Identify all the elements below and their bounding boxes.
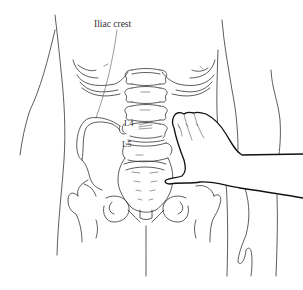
sacrum (118, 158, 173, 212)
right-femur-head (163, 196, 189, 222)
label-l5: L5 (122, 139, 131, 149)
ribs-left (73, 60, 128, 96)
ribs-right (162, 60, 215, 96)
vertebra-l1 (125, 69, 167, 86)
left-ilium (77, 117, 120, 190)
anatomy-illustration: Iliac crest L4 L5 (0, 0, 303, 290)
label-iliac-crest: Iliac crest (94, 19, 132, 29)
palpating-hand (165, 112, 303, 198)
left-femur-head (103, 196, 129, 222)
leader-line (96, 30, 117, 118)
iliac-crest-callout: Iliac crest (94, 19, 132, 118)
label-l4: L4 (124, 118, 134, 128)
torso-outline-left (20, 15, 65, 255)
vertebra-l2 (125, 87, 167, 104)
